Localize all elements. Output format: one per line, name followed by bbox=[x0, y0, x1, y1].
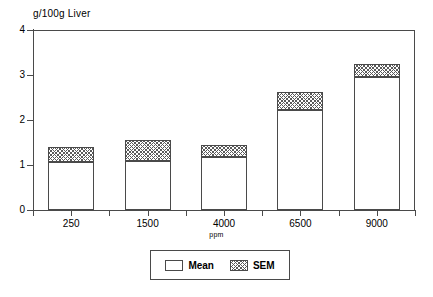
x-tick-mark-center bbox=[224, 211, 225, 216]
bar-6500 bbox=[277, 92, 323, 210]
bar-segment-mean bbox=[277, 110, 323, 210]
x-tick-label: 4000 bbox=[213, 218, 235, 229]
y-tick-label: 0 bbox=[3, 205, 25, 215]
bar-1500 bbox=[125, 140, 171, 210]
y-tick-mark bbox=[27, 30, 33, 31]
x-tick-mark bbox=[339, 211, 340, 216]
x-tick-label: 1500 bbox=[136, 218, 158, 229]
legend-swatch-sem-icon bbox=[230, 260, 248, 271]
bar-segment-mean bbox=[48, 162, 94, 210]
x-tick-mark bbox=[109, 211, 110, 216]
x-tick-label: 6500 bbox=[289, 218, 311, 229]
y-axis-title: g/100g Liver bbox=[33, 8, 90, 19]
y-tick-mark bbox=[27, 165, 33, 166]
x-tick-label: 250 bbox=[63, 218, 80, 229]
legend-item-sem[interactable]: SEM bbox=[230, 260, 275, 271]
bar-chart: g/100g Liver 01234 2501500400065009000 p… bbox=[0, 0, 433, 297]
bar-segment-sem bbox=[125, 140, 171, 161]
y-tick-label: 2 bbox=[3, 115, 25, 125]
bar-segment-sem bbox=[354, 64, 400, 77]
bar-segment-mean bbox=[125, 161, 171, 210]
y-tick-label: 4 bbox=[3, 25, 25, 35]
x-tick-mark bbox=[33, 211, 34, 216]
x-tick-mark-center bbox=[71, 211, 72, 216]
x-tick-label: 9000 bbox=[366, 218, 388, 229]
x-tick-mark bbox=[262, 211, 263, 216]
legend-label: Mean bbox=[188, 260, 214, 271]
legend-item-mean[interactable]: Mean bbox=[165, 260, 214, 271]
x-tick-mark-center bbox=[300, 211, 301, 216]
bar-segment-sem bbox=[48, 147, 94, 162]
y-axis-line bbox=[33, 29, 34, 211]
legend-label: SEM bbox=[253, 260, 275, 271]
x-axis-label: ppm bbox=[0, 231, 433, 238]
x-tick-mark bbox=[186, 211, 187, 216]
bar-segment-mean bbox=[201, 157, 247, 210]
bar-segment-sem bbox=[277, 92, 323, 110]
y-tick-label: 1 bbox=[3, 160, 25, 170]
bar-segment-sem bbox=[201, 145, 247, 157]
x-tick-mark-center bbox=[148, 211, 149, 216]
y-tick-mark bbox=[27, 120, 33, 121]
bar-4000 bbox=[201, 145, 247, 210]
x-tick-mark-center bbox=[377, 211, 378, 216]
bar-250 bbox=[48, 147, 94, 210]
legend: MeanSEM bbox=[150, 250, 290, 280]
bar-9000 bbox=[354, 64, 400, 210]
bar-segment-mean bbox=[354, 77, 400, 210]
legend-swatch-mean-icon bbox=[165, 260, 183, 271]
x-tick-mark bbox=[415, 211, 416, 216]
y-tick-label: 3 bbox=[3, 70, 25, 80]
y-tick-mark bbox=[27, 75, 33, 76]
